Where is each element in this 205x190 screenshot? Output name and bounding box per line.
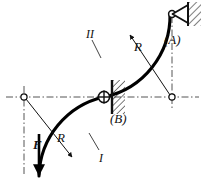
leader-segment-i (89, 133, 99, 150)
label-force: F (33, 138, 42, 151)
label-radius-lower: R (57, 131, 65, 144)
wall-hatch-a (188, 2, 201, 26)
support-a (169, 2, 201, 26)
figure-canvas: (A) (B) F R R I II (0, 0, 205, 190)
leader-segment-ii (92, 40, 101, 58)
label-segment-lower: I (99, 152, 103, 164)
label-radius-upper: R (134, 40, 142, 53)
wall-hatch-b (112, 80, 125, 114)
pin-triangle-a (173, 5, 189, 23)
support-b (98, 80, 126, 114)
label-support-b: (B) (110, 112, 127, 125)
label-segment-upper: II (86, 28, 94, 40)
label-support-a: (A) (164, 33, 181, 46)
